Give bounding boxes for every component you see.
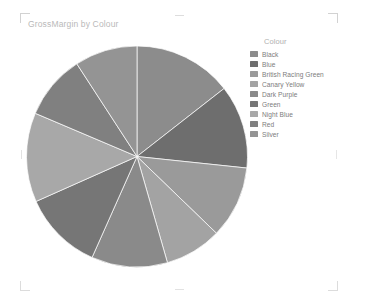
legend-item[interactable]: Canary Yellow [250,79,370,88]
legend-item-label: British Racing Green [262,70,324,79]
legend-swatch-icon [250,131,258,137]
legend-item-label: Green [262,100,281,109]
legend-item-label: Canary Yellow [262,80,304,89]
resize-handle-bottom[interactable] [175,289,184,290]
legend-item-label: Red [262,120,274,129]
legend-item[interactable]: Dark Purple [250,89,370,98]
legend-item-label: Dark Purple [262,90,297,99]
pie-svg [26,45,248,268]
legend-item-label: Night Blue [262,110,293,119]
legend-swatch-icon [250,61,258,67]
pie-chart-visual[interactable]: GrossMargin by Colour Colour BlackBlueBr… [0,0,383,300]
legend-item[interactable]: Green [250,99,370,108]
legend-item-label: Blue [262,60,275,69]
resize-handle-left[interactable] [21,150,22,159]
selection-corner-top-right[interactable] [328,13,338,23]
legend-swatch-icon [250,111,258,117]
resize-handle-top[interactable] [175,15,184,16]
selection-corner-bottom-right[interactable] [328,281,338,291]
legend-item[interactable]: Night Blue [250,109,370,118]
selection-corner-bottom-left[interactable] [20,281,30,291]
legend-swatch-icon [250,121,258,127]
legend-title: Colour [264,37,370,46]
legend[interactable]: Colour BlackBlueBritish Racing GreenCana… [250,37,370,139]
pie-plot-area[interactable] [26,45,248,268]
legend-item[interactable]: Red [250,119,370,128]
legend-swatch-icon [250,71,258,77]
visual-title: GrossMargin by Colour [28,19,119,29]
legend-item[interactable]: Black [250,50,370,59]
legend-item-label: Silver [262,130,279,139]
legend-swatch-icon [250,101,258,107]
legend-item-label: Black [262,50,278,59]
resize-handle-right[interactable] [336,150,337,159]
legend-swatch-icon [250,81,258,87]
legend-item[interactable]: British Racing Green [250,69,370,78]
legend-item[interactable]: Silver [250,129,370,138]
legend-swatch-icon [250,91,258,97]
legend-swatch-icon [250,51,258,57]
legend-item[interactable]: Blue [250,59,370,68]
